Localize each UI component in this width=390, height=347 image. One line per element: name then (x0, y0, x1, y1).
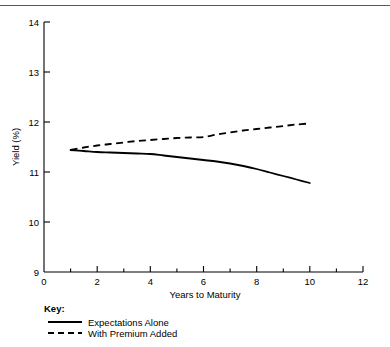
x-tick-label-10: 10 (305, 276, 316, 287)
axis-lines (44, 22, 363, 272)
x-tick-label-12: 12 (358, 276, 369, 287)
legend-label-expectations-alone: Expectations Alone (88, 317, 169, 328)
y-tick-label-13: 13 (28, 67, 39, 78)
series-expectations-alone (71, 150, 310, 183)
series-with-premium-added (71, 124, 310, 151)
x-tick-label-0: 0 (41, 276, 46, 287)
x-axis-tick-labels: 0 2 4 6 8 10 12 (41, 276, 368, 287)
y-tick-label-14: 14 (28, 17, 39, 28)
legend-item-expectations-alone[interactable]: Expectations Alone (48, 317, 169, 328)
legend-title: Key: (44, 303, 65, 314)
chart-figure: 14 13 12 11 10 9 0 2 (0, 0, 390, 347)
x-tick-label-4: 4 (148, 276, 153, 287)
x-axis-title: Years to Maturity (170, 289, 241, 300)
y-tick-label-11: 11 (29, 167, 39, 178)
data-series (71, 124, 310, 184)
chart-legend: Key: Expectations Alone With Premium Add… (44, 303, 177, 339)
x-tick-label-6: 6 (201, 276, 206, 287)
y-tick-label-10: 10 (28, 217, 39, 228)
legend-label-with-premium-added: With Premium Added (88, 328, 177, 339)
y-axis-title: Yield (%) (10, 128, 21, 166)
yield-curve-chart: 14 13 12 11 10 9 0 2 (0, 0, 390, 347)
y-axis-tick-labels: 14 13 12 11 10 9 (28, 17, 39, 278)
y-axis-ticks (44, 22, 50, 222)
x-tick-label-2: 2 (95, 276, 100, 287)
y-tick-label-9: 9 (34, 267, 39, 278)
legend-item-with-premium-added[interactable]: With Premium Added (48, 328, 177, 339)
y-tick-label-12: 12 (28, 117, 39, 128)
x-tick-label-8: 8 (254, 276, 259, 287)
